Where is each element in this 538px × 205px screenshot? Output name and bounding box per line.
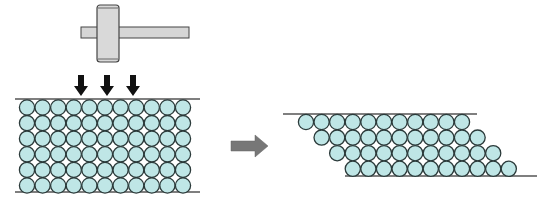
atom: [175, 131, 190, 146]
atom: [392, 114, 407, 129]
atom: [51, 116, 66, 131]
atom: [51, 178, 66, 193]
atom: [345, 146, 360, 161]
atom: [144, 178, 159, 193]
atom: [330, 114, 345, 129]
atom: [82, 131, 97, 146]
atom: [82, 147, 97, 162]
atom: [97, 131, 112, 146]
atom: [51, 131, 66, 146]
atom: [97, 162, 112, 177]
atom: [345, 161, 360, 176]
atom: [175, 147, 190, 162]
atom: [439, 130, 454, 145]
force-arrows: [74, 75, 140, 96]
atom: [160, 100, 175, 115]
atom: [66, 116, 81, 131]
down-arrow-icon: [74, 75, 88, 96]
atom: [144, 100, 159, 115]
after-lattice: [283, 114, 537, 176]
atom: [19, 116, 34, 131]
atom: [392, 161, 407, 176]
atom: [423, 161, 438, 176]
atom: [501, 161, 516, 176]
after-atoms: [298, 114, 516, 176]
atom: [376, 114, 391, 129]
atom: [408, 161, 423, 176]
atom: [97, 147, 112, 162]
before-lattice: [15, 99, 200, 193]
atom: [19, 100, 34, 115]
atom: [423, 130, 438, 145]
atom: [129, 100, 144, 115]
atom: [113, 178, 128, 193]
atom: [51, 100, 66, 115]
atom: [361, 130, 376, 145]
atom: [66, 100, 81, 115]
atom: [19, 131, 34, 146]
atom: [361, 161, 376, 176]
down-arrow-icon: [126, 75, 140, 96]
atom: [361, 114, 376, 129]
atom: [361, 146, 376, 161]
atom: [35, 178, 50, 193]
atom: [376, 130, 391, 145]
atom: [129, 162, 144, 177]
atom: [470, 146, 485, 161]
atom: [129, 147, 144, 162]
atom: [175, 162, 190, 177]
before-atoms: [19, 100, 190, 193]
atom: [160, 178, 175, 193]
atom: [470, 161, 485, 176]
atom: [439, 114, 454, 129]
atom: [454, 161, 469, 176]
atom: [454, 114, 469, 129]
atom: [470, 130, 485, 145]
atom: [129, 131, 144, 146]
atom: [19, 147, 34, 162]
atom: [298, 114, 313, 129]
atom: [113, 147, 128, 162]
atom: [392, 146, 407, 161]
atom: [19, 162, 34, 177]
atom: [66, 162, 81, 177]
atom: [129, 178, 144, 193]
atom: [486, 161, 501, 176]
atom: [144, 147, 159, 162]
atom: [97, 178, 112, 193]
atom: [175, 178, 190, 193]
atom: [51, 147, 66, 162]
atom: [454, 146, 469, 161]
atom: [160, 116, 175, 131]
atom: [439, 146, 454, 161]
hammer-head: [97, 5, 119, 62]
atom: [82, 116, 97, 131]
process-arrow-icon: [231, 135, 268, 157]
malleability-diagram: [0, 0, 538, 205]
atom: [113, 131, 128, 146]
atom: [314, 114, 329, 129]
atom: [175, 116, 190, 131]
atom: [113, 100, 128, 115]
atom: [175, 100, 190, 115]
atom: [35, 116, 50, 131]
atom: [330, 146, 345, 161]
atom: [144, 131, 159, 146]
atom: [408, 146, 423, 161]
atom: [345, 130, 360, 145]
atom: [35, 100, 50, 115]
down-arrow-icon: [100, 75, 114, 96]
atom: [144, 116, 159, 131]
atom: [408, 114, 423, 129]
atom: [82, 100, 97, 115]
atom: [113, 162, 128, 177]
atom: [51, 162, 66, 177]
atom: [66, 147, 81, 162]
atom: [97, 100, 112, 115]
right-arrow-shape: [231, 135, 268, 157]
atom: [423, 114, 438, 129]
atom: [439, 161, 454, 176]
atom: [486, 146, 501, 161]
atom: [66, 131, 81, 146]
atom: [144, 162, 159, 177]
